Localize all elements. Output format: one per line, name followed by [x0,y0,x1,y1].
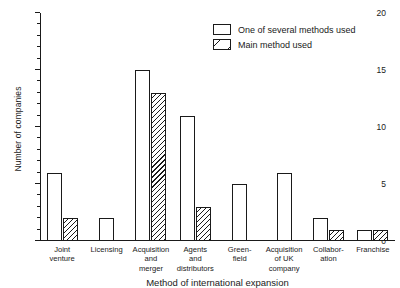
x-axis-category-label-line: ation [302,254,354,263]
y-axis-minor-tick [37,149,40,150]
y-axis-minor-tick [37,206,40,207]
y-axis-minor-tick [37,194,40,195]
chart-legend: One of several methods used Main method … [213,22,356,52]
legend-item-open: One of several methods used [213,22,356,37]
bar-one-of-several [99,218,114,241]
legend-label-hatched: Main method used [238,40,312,50]
bar-main-method [63,218,78,241]
bar-main-method [329,230,344,241]
bar-main-method [151,93,166,241]
y-axis-tick-label: 10 [362,123,386,132]
y-axis-minor-tick [37,160,40,161]
y-axis-minor-tick [37,35,40,36]
x-axis-category-label-line: venture [36,254,88,263]
y-axis-minor-tick [37,23,40,24]
y-axis-tick-label: 5 [362,180,386,189]
bar-one-of-several [313,218,328,241]
x-axis-title: Method of international expansion [40,277,395,288]
x-axis-category-label-line: Franchise [347,245,399,254]
bar-one-of-several [135,70,150,241]
y-axis-major-tick [35,69,40,70]
y-axis-minor-tick [37,115,40,116]
bar-one-of-several [232,184,247,241]
legend-label-open: One of several methods used [238,25,356,35]
bar-one-of-several [357,230,372,241]
y-axis-minor-tick [37,217,40,218]
legend-item-hatched: Main method used [213,37,356,52]
y-axis-tick-label: 20 [362,9,386,18]
y-axis-minor-tick [37,103,40,104]
y-axis-tick-label: 15 [362,66,386,75]
y-axis-major-tick [35,183,40,184]
x-axis-category-label-line: company [258,264,310,273]
y-axis-minor-tick [37,92,40,93]
bar-one-of-several [180,116,195,241]
bar-one-of-several [47,173,62,241]
y-axis-minor-tick [37,46,40,47]
y-axis-minor-tick [37,58,40,59]
y-axis-minor-tick [37,80,40,81]
y-axis-minor-tick [37,229,40,230]
x-axis-category-label: Franchise [347,245,399,254]
y-axis-line [40,13,41,241]
y-axis-major-tick [35,126,40,127]
y-axis-minor-tick [37,172,40,173]
y-axis-major-tick [35,240,40,241]
y-axis-title: Number of companies [13,59,23,199]
bar-main-method [196,207,211,241]
y-axis-minor-tick [37,137,40,138]
legend-swatch-hatched-icon [213,39,231,50]
y-axis-major-tick [35,12,40,13]
bar-main-method [373,230,388,241]
bar-one-of-several [277,173,292,241]
legend-swatch-open-icon [213,24,231,35]
x-axis-category-label-line: distributors [169,264,221,273]
